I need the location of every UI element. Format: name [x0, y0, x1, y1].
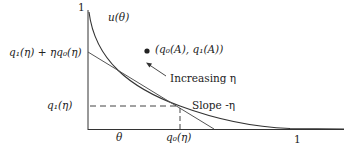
u-theta-curve: [89, 12, 344, 129]
x-axis-right-label: 1: [294, 133, 301, 145]
y-axis-top-label: 1: [78, 1, 85, 13]
arrow-label: Increasing η: [170, 72, 236, 84]
point-label: (q₀(A), q₁(A)): [155, 43, 223, 55]
intercept-label: q₁(η) + ηq₀(η): [9, 46, 82, 58]
curve-label: u(θ): [108, 11, 129, 23]
arrow-head-icon: [146, 63, 152, 68]
increasing-arrow: [148, 64, 166, 76]
theta-label: θ: [116, 131, 122, 143]
point-A: [144, 48, 149, 53]
y-tangent-label: q₁(η): [47, 99, 72, 111]
x-tangent-label: q₀(η): [166, 131, 191, 143]
slope-label: Slope -η: [192, 99, 235, 111]
